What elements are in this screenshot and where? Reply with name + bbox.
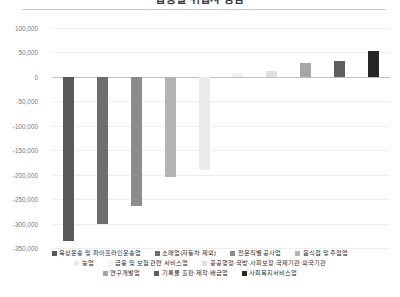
y-tick-label: -50,000 [0, 98, 38, 105]
legend-item[interactable]: 전문직별 공사업 [230, 249, 281, 257]
legend-label: 육상운송 및 파이프라인운송업 [59, 249, 140, 257]
bar-series [52, 28, 390, 248]
chart-page: 업종별 취업자 증감 100,00050,0000-50,000-100,000… [0, 0, 400, 297]
bar [334, 61, 345, 77]
legend-item[interactable]: 농업 [74, 259, 94, 267]
bar [266, 71, 277, 77]
legend-label: 소매업(자동차 제외) [162, 249, 216, 257]
legend-item[interactable]: 공공행정·국방·사회보장·국제기관·외국기관 [202, 259, 326, 267]
legend-swatch-icon [108, 261, 113, 266]
y-tick-label: -200,000 [0, 171, 38, 178]
legend-label: 금융 및 보험 관련 서비스업 [115, 259, 188, 267]
bar [368, 51, 379, 76]
chart-legend: 육상운송 및 파이프라인운송업소매업(자동차 제외)전문직별 공사업음식점 및 … [10, 249, 390, 277]
legend-swatch-icon [295, 251, 300, 256]
legend-item[interactable]: 소매업(자동차 제외) [155, 249, 216, 257]
legend-item[interactable]: 음식점 및 주점업 [295, 249, 348, 257]
y-tick-label: -300,000 [0, 220, 38, 227]
bar [97, 77, 108, 224]
bar [165, 77, 176, 177]
legend-swatch-icon [155, 251, 160, 256]
legend-swatch-icon [202, 261, 207, 266]
legend-label: 연구개발업 [110, 269, 140, 277]
legend-item[interactable]: 금융 및 보험 관련 서비스업 [108, 259, 188, 267]
y-tick-label: 50,000 [0, 49, 38, 56]
bar [63, 77, 74, 241]
legend-label: 기록물 출판·제작·배급업 [162, 269, 228, 277]
legend-item[interactable]: 기록물 출판·제작·배급업 [154, 269, 227, 277]
legend-swatch-icon [154, 271, 159, 276]
bar [131, 77, 142, 207]
legend-row: 농업금융 및 보험 관련 서비스업공공행정·국방·사회보장·국제기관·외국기관 [74, 259, 326, 267]
chart-title-clipped: 업종별 취업자 증감 [0, 0, 400, 7]
legend-swatch-icon [52, 251, 57, 256]
legend-item[interactable]: 사회복지서비스업 [242, 269, 298, 277]
y-tick-label: 0 [0, 73, 38, 80]
legend-item[interactable]: 육상운송 및 파이프라인운송업 [52, 249, 141, 257]
title-divider [22, 9, 386, 10]
plot-area: 100,00050,0000-50,000-100,000-150,000-20… [52, 28, 390, 248]
bar [232, 73, 243, 77]
legend-label: 사회복지서비스업 [249, 269, 297, 277]
legend-row: 연구개발업기록물 출판·제작·배급업사회복지서비스업 [103, 269, 297, 277]
legend-item[interactable]: 연구개발업 [103, 269, 141, 277]
legend-label: 농업 [82, 259, 94, 267]
bar [199, 77, 210, 170]
legend-row: 육상운송 및 파이프라인운송업소매업(자동차 제외)전문직별 공사업음식점 및 … [52, 249, 348, 257]
y-tick-label: -150,000 [0, 147, 38, 154]
legend-label: 공공행정·국방·사회보장·국제기관·외국기관 [210, 259, 326, 267]
y-tick-label: 100,000 [0, 25, 38, 32]
legend-swatch-icon [103, 271, 108, 276]
legend-swatch-icon [74, 261, 79, 266]
y-tick-label: -100,000 [0, 122, 38, 129]
legend-label: 음식점 및 주점업 [303, 249, 348, 257]
page-title: 업종별 취업자 증감 [0, 0, 400, 7]
y-tick-label: -250,000 [0, 196, 38, 203]
bar [300, 63, 311, 77]
legend-swatch-icon [242, 271, 247, 276]
legend-swatch-icon [230, 251, 235, 256]
legend-label: 전문직별 공사업 [238, 249, 282, 257]
